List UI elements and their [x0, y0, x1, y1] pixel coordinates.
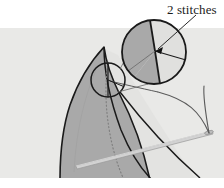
callout-label: 2 stitches	[167, 2, 217, 17]
sewing-illustration-figure: 2 stitches	[0, 0, 224, 188]
illustration-canvas	[0, 0, 224, 188]
